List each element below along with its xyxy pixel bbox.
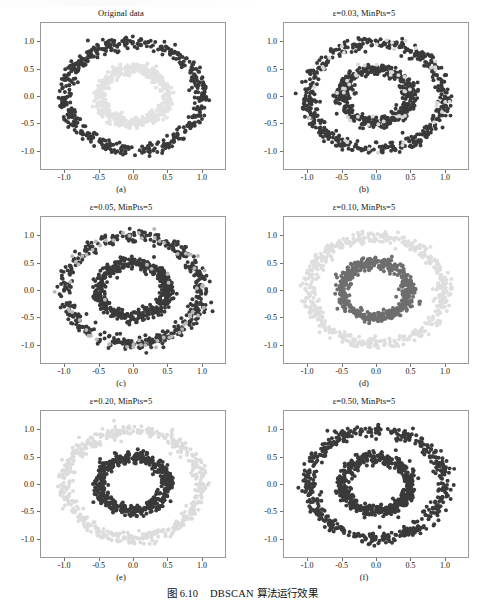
panel-a-xtick-label: -1.0 xyxy=(58,173,71,182)
panel-d: ε=0.10, MinPts=5 (d) 1.00.50.0-0.5-1.0-1… xyxy=(243,202,485,390)
panel-f-ytick-label: 1.0 xyxy=(243,425,277,434)
panel-c-xtick-mark xyxy=(167,364,168,367)
panel-d-scatter xyxy=(284,217,468,363)
panel-b-sublabel: (b) xyxy=(243,184,485,194)
panel-a-ytick-mark xyxy=(37,151,40,152)
panel-d-xtick-mark xyxy=(342,364,343,367)
panel-e-ytick-label: -0.5 xyxy=(0,507,34,516)
panel-d-ytick-mark xyxy=(280,317,283,318)
panel-d-axes xyxy=(283,216,469,364)
panel-d-ytick-label: 0.5 xyxy=(243,258,277,267)
panel-d-title: ε=0.10, MinPts=5 xyxy=(243,202,485,212)
panel-d-ytick-label: -0.5 xyxy=(243,313,277,322)
panel-b-ytick-mark xyxy=(280,96,283,97)
panel-e-ytick-mark xyxy=(37,429,40,430)
panel-a-xtick-label: 1.0 xyxy=(197,173,207,182)
panel-c-sublabel: (c) xyxy=(0,378,242,388)
panel-b-xtick-mark xyxy=(307,170,308,173)
panel-e-points xyxy=(56,419,211,546)
panel-b: ε=0.03, MinPts=5 (b) 1.00.50.0-0.5-1.0-1… xyxy=(243,8,485,196)
panel-b-title: ε=0.03, MinPts=5 xyxy=(243,8,485,18)
panel-b-xtick-label: 0.0 xyxy=(371,173,381,182)
panel-f-scatter xyxy=(284,411,468,557)
panel-f-ytick-label: -1.0 xyxy=(243,534,277,543)
panel-c-ytick-mark xyxy=(37,317,40,318)
panel-f-ytick-mark xyxy=(280,539,283,540)
panel-c-xtick-mark xyxy=(64,364,65,367)
panel-a-ytick-label: -0.5 xyxy=(0,119,34,128)
panel-e-xtick-mark xyxy=(99,558,100,561)
panel-d-ytick-label: -1.0 xyxy=(243,340,277,349)
panel-e-ytick-mark xyxy=(37,457,40,458)
panel-d-ytick-label: 0.0 xyxy=(243,286,277,295)
panel-e-ytick-label: 1.0 xyxy=(0,425,34,434)
series-cluster-dark-outer xyxy=(55,227,214,355)
panel-f-sublabel: (f) xyxy=(243,572,485,582)
panel-f-xtick-label: -0.5 xyxy=(335,561,348,570)
panel-c-title: ε=0.05, MinPts=5 xyxy=(0,202,242,212)
panel-c-ytick-label: -0.5 xyxy=(0,313,34,322)
panel-d-xtick-mark xyxy=(307,364,308,367)
panel-f-xtick-label: 1.0 xyxy=(440,561,450,570)
panel-b-scatter xyxy=(284,23,468,169)
panel-e-title: ε=0.20, MinPts=5 xyxy=(0,396,242,406)
subplot-grid: Original data (a) 1.00.50.0-0.5-1.0-1.0-… xyxy=(0,8,485,573)
panel-c-ytick-label: -1.0 xyxy=(0,340,34,349)
series-outer-circle xyxy=(57,35,211,158)
panel-e-axes xyxy=(40,410,226,558)
figure-sheet: Original data (a) 1.00.50.0-0.5-1.0-1.0-… xyxy=(0,0,485,608)
panel-b-ytick-mark xyxy=(280,41,283,42)
panel-e-xtick-label: -1.0 xyxy=(58,561,71,570)
panel-f-svg xyxy=(284,411,468,557)
panel-b-svg xyxy=(284,23,468,169)
panel-e-xtick-mark xyxy=(202,558,203,561)
panel-e-sublabel: (e) xyxy=(0,572,242,582)
panel-d-ytick-mark xyxy=(280,290,283,291)
panel-f-ytick-mark xyxy=(280,511,283,512)
panel-c-ytick-label: 0.5 xyxy=(0,258,34,267)
panel-d-xtick-label: 1.0 xyxy=(440,367,450,376)
panel-e-xtick-label: 0.5 xyxy=(162,561,172,570)
series-cluster-dark-outer xyxy=(294,36,454,155)
panel-a-xtick-label: -0.5 xyxy=(92,173,105,182)
panel-a-points xyxy=(57,35,211,158)
panel-e-scatter xyxy=(41,411,225,557)
panel-a-sublabel: (a) xyxy=(0,184,242,194)
panel-a-ytick-mark xyxy=(37,96,40,97)
panel-a-ytick-label: 0.0 xyxy=(0,92,34,101)
panel-c-xtick-label: 1.0 xyxy=(197,367,207,376)
panel-d-points xyxy=(299,230,454,350)
panel-a-xtick-mark xyxy=(64,170,65,173)
panel-c-points xyxy=(53,227,215,355)
panel-f-xtick-label: 0.5 xyxy=(405,561,415,570)
panel-e-ytick-label: -1.0 xyxy=(0,534,34,543)
panel-d-xtick-label: -1.0 xyxy=(301,367,314,376)
panel-f-ytick-label: 0.0 xyxy=(243,480,277,489)
panel-e-xtick-mark xyxy=(167,558,168,561)
panel-a-ytick-label: 1.0 xyxy=(0,37,34,46)
panel-b-xtick-mark xyxy=(445,170,446,173)
panel-d-sublabel: (d) xyxy=(243,378,485,388)
panel-b-xtick-label: 0.5 xyxy=(405,173,415,182)
panel-f: ε=0.50, MinPts=5 (f) 1.00.50.0-0.5-1.0-1… xyxy=(243,396,485,584)
panel-c-xtick-label: 0.5 xyxy=(162,367,172,376)
panel-a-axes xyxy=(40,22,226,170)
page-header-artifact xyxy=(0,0,250,7)
panel-f-xtick-mark xyxy=(307,558,308,561)
panel-a-xtick-label: 0.0 xyxy=(128,173,138,182)
panel-f-ytick-label: 0.5 xyxy=(243,452,277,461)
figure-caption-number: 图 6.10 xyxy=(167,588,198,599)
panel-c-xtick-label: 0.0 xyxy=(128,367,138,376)
panel-f-ytick-mark xyxy=(280,484,283,485)
panel-c-ytick-mark xyxy=(37,263,40,264)
figure-caption-text: DBSCAN 算法运行效果 xyxy=(210,588,318,599)
series-cluster-1-outer xyxy=(299,230,454,350)
panel-d-ytick-mark xyxy=(280,235,283,236)
panel-c-ytick-label: 1.0 xyxy=(0,231,34,240)
panel-a-ytick-mark xyxy=(37,123,40,124)
panel-e-ytick-mark xyxy=(37,511,40,512)
panel-a-svg xyxy=(41,23,225,169)
panel-c-xtick-label: -1.0 xyxy=(58,367,71,376)
panel-e-xtick-label: -0.5 xyxy=(92,561,105,570)
panel-f-ytick-mark xyxy=(280,457,283,458)
